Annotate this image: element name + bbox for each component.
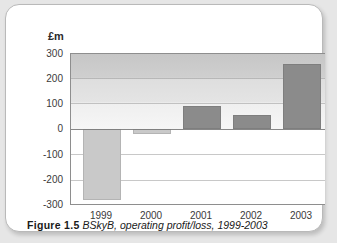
page-root: £m 300 200 100 0 -100 -200 -300 xyxy=(0,0,337,243)
figure-card: £m 300 200 100 0 -100 -200 -300 xyxy=(5,4,323,232)
plot-area xyxy=(70,53,325,205)
y-tick-label-minus-200: -200 xyxy=(19,175,63,185)
zero-axis-line xyxy=(71,129,325,130)
bar-2002 xyxy=(233,115,271,129)
figure-caption: Figure 1.5BSkyB, operating profit/loss, … xyxy=(27,219,307,231)
y-tick-label-minus-100: -100 xyxy=(19,150,63,160)
y-tick-label-300: 300 xyxy=(19,49,63,59)
bar-2001 xyxy=(183,106,221,129)
y-tick-label-100: 100 xyxy=(19,99,63,109)
y-tick-label-minus-300: -300 xyxy=(19,200,63,210)
bar-1999 xyxy=(83,129,121,200)
bar-2003 xyxy=(283,64,321,129)
gridline-300 xyxy=(71,53,325,54)
y-axis-unit-label: £m xyxy=(48,30,64,42)
figure-description: BSkyB, operating profit/loss, 1999-2003 xyxy=(83,219,268,231)
y-tick-label-0: 0 xyxy=(19,124,63,134)
y-tick-label-200: 200 xyxy=(19,74,63,84)
figure-number: Figure 1.5 xyxy=(27,219,80,231)
figure-card-inner: £m 300 200 100 0 -100 -200 -300 xyxy=(15,13,315,225)
